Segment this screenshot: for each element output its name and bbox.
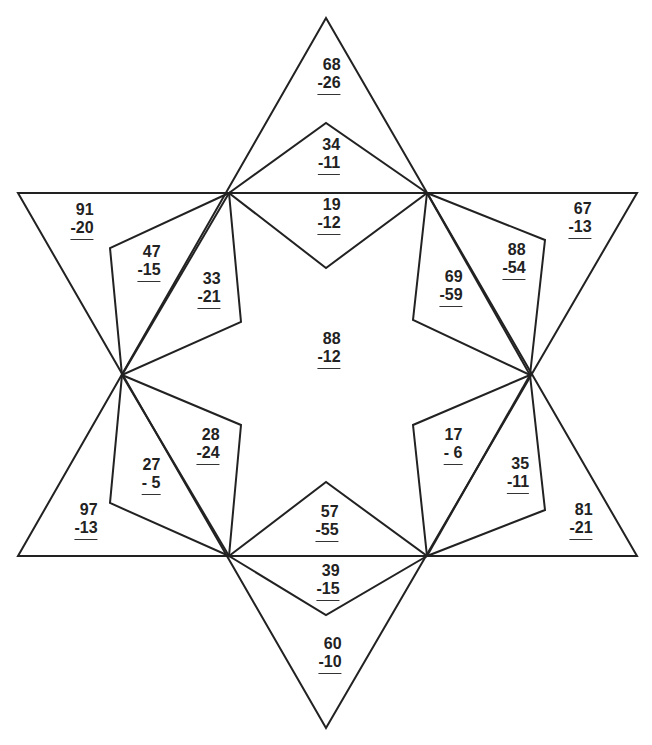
problem-upper-right-kite-outer: 88-54 [502,241,525,280]
problem-bottom-kite-upper: 57-55 [315,503,338,542]
problem-bottom-point: 60-10 [318,635,341,674]
problem-lower-right-kite-outer: 35-11 [507,455,529,494]
star-diagram [0,0,652,745]
subtrahend: -59 [439,286,462,307]
minuend: 91 [70,201,93,219]
subtrahend: - 5 [142,474,161,495]
subtrahend: -13 [74,519,97,540]
subtrahend: -21 [197,288,220,309]
subtrahend: -21 [569,519,592,540]
subtrahend: -11 [507,473,529,494]
subtrahend: -55 [315,521,338,542]
subtrahend: -20 [70,219,93,240]
problem-top-point: 68-26 [317,56,340,95]
problem-lower-left-kite-outer: 27- 5 [142,456,161,495]
minuend: 57 [315,503,338,521]
lower-left-kite-divider [122,375,229,556]
problem-lower-left-kite-inner: 28-24 [196,426,219,465]
subtrahend: -54 [502,259,525,280]
minuend: 81 [569,501,592,519]
minuend: 33 [197,270,220,288]
subtrahend: -13 [568,218,591,239]
problem-lower-left-point: 97-13 [74,501,97,540]
minuend: 69 [439,268,462,286]
problem-upper-left-point: 91-20 [70,201,93,240]
upward-triangle [18,18,637,556]
minuend: 35 [507,455,529,473]
subtrahend: -15 [316,580,339,601]
minuend: 39 [316,562,339,580]
subtrahend: -11 [318,154,340,175]
problem-upper-right-point: 67-13 [568,200,591,239]
problem-upper-left-kite-outer: 47-15 [137,243,160,282]
subtrahend: -12 [317,348,340,369]
minuend: 27 [142,456,161,474]
minuend: 34 [318,136,340,154]
minuend: 28 [196,426,219,444]
minuend: 68 [317,56,340,74]
subtrahend: -12 [317,214,340,235]
subtrahend: -24 [196,444,219,465]
problem-upper-left-kite-inner: 33-21 [197,270,220,309]
problem-top-kite-upper: 34-11 [318,136,340,175]
minuend: 19 [317,196,340,214]
subtrahend: - 6 [444,444,463,465]
subtrahend: -10 [318,653,341,674]
minuend: 60 [318,635,341,653]
problem-lower-right-kite-inner: 17- 6 [444,426,463,465]
minuend: 88 [502,241,525,259]
minuend: 97 [74,501,97,519]
subtrahend: -26 [317,74,340,95]
minuend: 88 [317,330,340,348]
problem-top-kite-lower: 19-12 [317,196,340,235]
minuend: 47 [137,243,160,261]
minuend: 17 [444,426,463,444]
minuend: 67 [568,200,591,218]
problem-center: 88-12 [317,330,340,369]
problem-lower-right-point: 81-21 [569,501,592,540]
problem-bottom-kite-lower: 39-15 [316,562,339,601]
subtrahend: -15 [137,261,160,282]
problem-upper-right-kite-inner: 69-59 [439,268,462,307]
